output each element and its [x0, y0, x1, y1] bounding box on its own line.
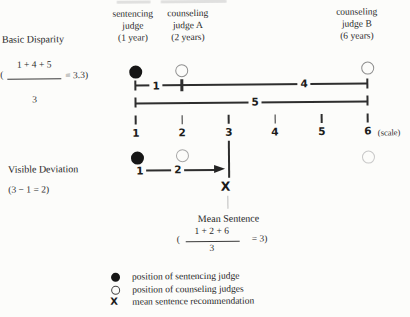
legend-counseling-judges-label: position of counseling judges — [132, 283, 244, 294]
counseling-judge-b-point-icon — [361, 61, 374, 74]
scale-label-5: 5 — [315, 125, 329, 137]
page-crop-artifact — [161, 0, 227, 3]
mean-sentence-numerator: 1 + 2 + 6 — [185, 226, 239, 236]
mean-sentence-result: = 3) — [252, 233, 268, 243]
basic-disparity-title: Basic Disparity — [2, 33, 64, 45]
arrowhead-icon — [214, 165, 225, 173]
scale-tick-1 — [135, 115, 137, 124]
disparity-line-a — [135, 83, 367, 87]
basic-disparity-denominator: 3 — [7, 94, 61, 104]
deviation-start-label: 1 — [136, 164, 143, 177]
legend-filled-circle-icon — [111, 273, 120, 282]
scale-tick-6 — [367, 113, 369, 122]
basic-disparity-open-paren: ( — [0, 70, 3, 80]
line-a-right-tick — [366, 78, 368, 88]
header-counseling-judge-b: counseling judge B (6 years) — [324, 5, 390, 42]
legend-mean-sentence-label: mean sentence recommendation — [132, 296, 254, 307]
mean-label-connector — [228, 196, 229, 209]
scale-label-3: 3 — [222, 126, 236, 138]
sentencing-judge-point-icon — [129, 65, 142, 78]
legend-x-icon: X — [110, 296, 118, 307]
visible-deviation-title: Visible Deviation — [8, 163, 78, 175]
mean-sentence-title: Mean Sentence — [187, 212, 269, 224]
mean-position-vertical-line — [228, 141, 230, 178]
scale-tick-2 — [181, 115, 183, 124]
legend-sentencing-judge-label: position of sentencing judge — [132, 271, 239, 282]
scanned-sheet: sentencing judge (1 year) counseling jud… — [0, 0, 410, 317]
counseling-judge-a-point-icon — [175, 149, 188, 162]
legend-open-circle-icon — [111, 285, 120, 294]
segment-label-4: 4 — [297, 77, 310, 90]
page-crop-artifact — [117, 0, 151, 3]
segment-label-5: 5 — [248, 95, 261, 108]
basic-disparity-fraction-bar — [7, 78, 61, 80]
mean-sentence-denominator: 3 — [185, 242, 239, 252]
sentencing-judge-point-icon — [130, 151, 143, 164]
scale-label-6: 6 — [361, 125, 375, 137]
header-counseling-judge-a: counseling judge A (2 years) — [155, 7, 221, 44]
basic-disparity-numerator: 1 + 4 + 5 — [7, 59, 61, 69]
scale-caption: (scale) — [378, 127, 401, 137]
deviation-distance-label: 2 — [171, 163, 184, 176]
scale-tick-4 — [274, 114, 276, 123]
segment-label-1: 1 — [149, 79, 162, 92]
line-b-right-tick — [366, 96, 368, 106]
visible-deviation-formula: (3 − 1 = 2) — [8, 184, 49, 194]
line-a-left-tick — [135, 80, 137, 90]
scale-label-1: 1 — [129, 127, 143, 139]
mean-sentence-open-paren: ( — [177, 234, 180, 244]
scale-tick-3 — [228, 114, 230, 123]
scale-label-4: 4 — [268, 125, 282, 137]
line-a-mid-tick — [180, 79, 184, 91]
counseling-judge-a-point-icon — [175, 64, 188, 77]
basic-disparity-result: = 3.3) — [65, 70, 88, 80]
line-b-left-tick — [135, 98, 137, 108]
scale-tick-5 — [321, 113, 323, 122]
scale-label-2: 2 — [175, 126, 189, 138]
counseling-judge-b-point-icon — [361, 150, 374, 163]
mean-sentence-x-mark: X — [221, 178, 231, 193]
figure-page: sentencing judge (1 year) counseling jud… — [0, 0, 410, 317]
